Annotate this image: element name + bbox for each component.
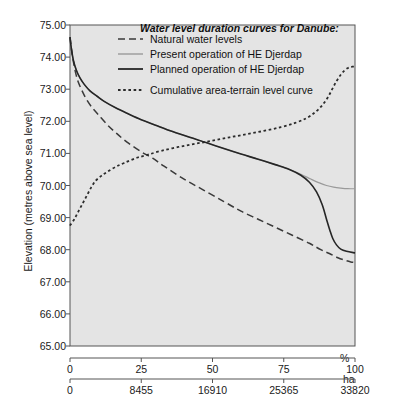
chart-figure: Elevation (metres above sea level) 65.00…	[0, 0, 395, 397]
legend-entry-label: Natural water levels	[150, 33, 242, 45]
legend-entry-label: Present operation of HE Djerdap	[150, 48, 302, 60]
legend-entry-label: Planned operation of HE Djerdap	[150, 63, 304, 75]
legend-entry-label: Cumulative area-terrain level curve	[150, 84, 313, 96]
